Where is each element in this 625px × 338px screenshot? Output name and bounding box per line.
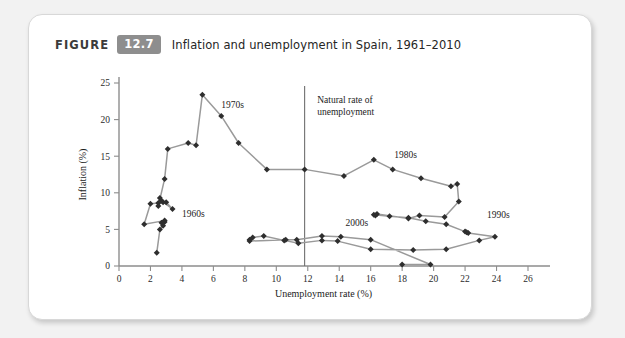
x-axis-tick-label: 18	[397, 274, 407, 284]
data-point-marker	[476, 237, 482, 243]
x-axis-tick-label: 4	[180, 274, 185, 284]
data-point-marker	[335, 238, 341, 244]
data-point-marker	[416, 212, 422, 218]
x-axis-tick-label: 16	[366, 274, 376, 284]
chart-annotation: Natural rate of	[317, 95, 373, 105]
x-axis-tick-label: 22	[460, 274, 470, 284]
y-axis-tick-label: 0	[105, 261, 110, 271]
data-point-marker	[154, 250, 160, 256]
x-axis-title: Unemployment rate (%)	[275, 288, 372, 300]
chart-annotation: 2000s	[346, 218, 369, 228]
data-point-marker	[302, 166, 308, 172]
data-point-marker	[185, 140, 191, 146]
y-axis-tick-label: 15	[101, 152, 111, 162]
y-axis-tick-label: 20	[101, 115, 111, 125]
x-axis-tick-label: 24	[492, 274, 502, 284]
data-point-marker	[410, 247, 416, 253]
data-point-marker	[443, 221, 449, 227]
x-axis-tick-label: 8	[242, 274, 247, 284]
y-axis-tick-label: 25	[101, 78, 111, 88]
data-point-marker	[319, 233, 325, 239]
data-point-marker	[338, 234, 344, 240]
chart-annotation: 1990s	[487, 210, 510, 220]
x-axis-tick-label: 6	[211, 274, 216, 284]
y-axis-tick-label: 5	[105, 225, 110, 235]
data-point-marker	[405, 215, 411, 221]
data-point-marker	[261, 233, 267, 239]
data-point-marker	[387, 213, 393, 219]
data-series-line	[144, 95, 495, 265]
x-axis-tick-label: 0	[117, 274, 122, 284]
figure-card: FIGURE 12.7 Inflation and unemployment i…	[28, 14, 592, 320]
data-point-marker	[141, 221, 147, 227]
data-point-marker	[492, 234, 498, 240]
data-point-marker	[165, 146, 171, 152]
data-point-marker	[371, 157, 377, 163]
chart-annotation: 1960s	[182, 209, 205, 219]
data-point-marker	[448, 183, 454, 189]
data-point-marker	[368, 237, 374, 243]
x-axis-tick-label: 26	[523, 274, 533, 284]
x-axis-tick-label: 10	[272, 274, 282, 284]
chart-annotation: 1980s	[394, 150, 417, 160]
x-axis-tick-label: 20	[429, 274, 439, 284]
inflation-unemployment-chart: 051015202502468101214161820222426Unemplo…	[29, 15, 593, 321]
data-point-marker	[193, 142, 199, 148]
chart-plot-area: 051015202502468101214161820222426Unemplo…	[29, 15, 593, 321]
data-point-marker	[454, 181, 460, 187]
chart-annotation: unemployment	[317, 107, 374, 117]
y-axis-title: Inflation (%)	[77, 149, 89, 201]
data-point-marker	[423, 218, 429, 224]
x-axis-tick-label: 2	[148, 274, 153, 284]
x-axis-tick-label: 12	[303, 274, 313, 284]
data-point-marker	[390, 166, 396, 172]
data-point-marker	[368, 246, 374, 252]
chart-annotation: 1970s	[221, 100, 244, 110]
data-point-marker	[418, 175, 424, 181]
data-point-marker	[162, 176, 168, 182]
data-point-marker	[147, 201, 153, 207]
data-point-marker	[341, 173, 347, 179]
y-axis-tick-label: 10	[101, 188, 111, 198]
x-axis-tick-label: 14	[334, 274, 344, 284]
data-point-marker	[443, 246, 449, 252]
